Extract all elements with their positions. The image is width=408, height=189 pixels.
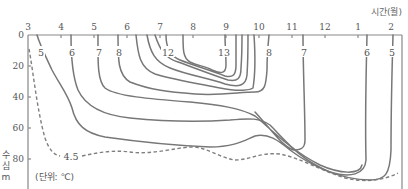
svg-text:20: 20 bbox=[13, 61, 25, 71]
svg-text:5: 5 bbox=[91, 22, 97, 32]
y-axis-tick-labels: 0 20 40 60 80 bbox=[13, 30, 25, 164]
isotherm-4.5 bbox=[29, 49, 398, 180]
svg-text:4: 4 bbox=[58, 22, 64, 32]
label-5-right: 5 bbox=[389, 47, 395, 58]
svg-text:7: 7 bbox=[157, 22, 163, 32]
svg-text:40: 40 bbox=[13, 92, 25, 102]
label-7-right: 7 bbox=[301, 47, 307, 58]
isotherm-9 bbox=[136, 35, 255, 90]
svg-text:1: 1 bbox=[355, 22, 361, 32]
svg-text:12: 12 bbox=[319, 22, 330, 32]
x-axis-title: 시간(월) bbox=[371, 6, 402, 17]
svg-text:11: 11 bbox=[286, 22, 297, 32]
isotherm-5 bbox=[37, 35, 393, 180]
label-12: 12 bbox=[162, 47, 174, 58]
label-13: 13 bbox=[218, 47, 230, 58]
isotherm-10 bbox=[147, 35, 248, 86]
label-8-left: 8 bbox=[116, 47, 122, 58]
svg-text:60: 60 bbox=[13, 123, 25, 133]
label-7-left: 7 bbox=[96, 47, 102, 58]
svg-text:8: 8 bbox=[190, 22, 196, 32]
svg-text:2: 2 bbox=[388, 22, 394, 32]
label-6-right: 6 bbox=[364, 47, 370, 58]
unit-note: (단위: ℃) bbox=[35, 170, 74, 183]
label-8-right: 8 bbox=[266, 47, 272, 58]
label-6-left: 6 bbox=[69, 47, 75, 58]
label-5-left: 5 bbox=[38, 47, 44, 58]
thermocline-contour-chart: 시간(월) 3 4 5 6 7 8 9 10 11 12 1 2 0 bbox=[0, 0, 408, 189]
svg-text:80: 80 bbox=[13, 154, 25, 164]
svg-text:6: 6 bbox=[124, 22, 130, 32]
svg-text:0: 0 bbox=[18, 30, 24, 40]
svg-text:10: 10 bbox=[253, 22, 265, 32]
x-axis-tick-labels: 3 4 5 6 7 8 9 10 11 12 1 2 bbox=[25, 22, 394, 32]
y-axis-title: 수 심 m bbox=[0, 150, 12, 183]
label-4.5: 4.5 bbox=[63, 151, 78, 162]
svg-text:3: 3 bbox=[25, 22, 31, 32]
svg-text:9: 9 bbox=[223, 22, 229, 32]
